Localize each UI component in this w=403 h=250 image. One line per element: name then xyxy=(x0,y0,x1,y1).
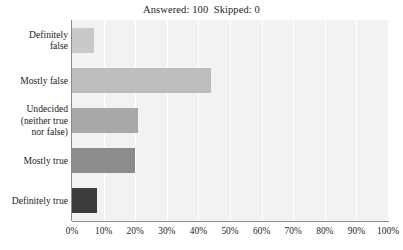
x-tick-label: 40% xyxy=(190,226,207,236)
bar-1[interactable] xyxy=(72,68,211,93)
x-tick-label: 0% xyxy=(66,226,79,236)
category-label-line: Undecided xyxy=(0,103,68,114)
category-label: Mostly false xyxy=(0,75,68,86)
x-axis-labels: 0%10%20%30%40%50%60%70%80%90%100% xyxy=(0,226,403,244)
bar-row[interactable] xyxy=(72,68,388,93)
x-tick-label: 20% xyxy=(127,226,144,236)
y-axis-labels: DefinitelyfalseMostly falseUndecided(nei… xyxy=(0,0,68,250)
category-label-line: nor false) xyxy=(0,126,68,137)
bar-4[interactable] xyxy=(72,188,97,213)
x-tick-label: 50% xyxy=(221,226,238,236)
category-label: Undecided(neither truenor false) xyxy=(0,103,68,137)
x-tick-label: 70% xyxy=(285,226,302,236)
bar-row[interactable] xyxy=(72,28,388,53)
category-label-line: false xyxy=(0,40,68,51)
bar-row[interactable] xyxy=(72,148,388,173)
x-tick-label: 30% xyxy=(158,226,175,236)
plot-area xyxy=(72,20,388,221)
x-tick-label: 60% xyxy=(253,226,270,236)
x-tick-label: 90% xyxy=(348,226,365,236)
y-axis-line xyxy=(71,20,72,221)
category-label: Definitely true xyxy=(0,195,68,206)
category-label: Definitelyfalse xyxy=(0,29,68,52)
x-axis-line xyxy=(72,221,389,222)
bar-row[interactable] xyxy=(72,108,388,133)
bar-row[interactable] xyxy=(72,188,388,213)
category-label-line: (neither true xyxy=(0,115,68,126)
category-label-line: Mostly true xyxy=(0,155,68,166)
survey-bar-chart: Answered: 100 Skipped: 0 Definitelyfalse… xyxy=(0,0,403,250)
bar-3[interactable] xyxy=(72,148,135,173)
x-tick-label: 100% xyxy=(377,226,399,236)
category-label-line: Definitely true xyxy=(0,195,68,206)
x-tick-label: 80% xyxy=(316,226,333,236)
category-label: Mostly true xyxy=(0,155,68,166)
bar-0[interactable] xyxy=(72,28,94,53)
bar-2[interactable] xyxy=(72,108,138,133)
x-tick-label: 10% xyxy=(95,226,112,236)
category-label-line: Definitely xyxy=(0,29,68,40)
category-label-line: Mostly false xyxy=(0,75,68,86)
